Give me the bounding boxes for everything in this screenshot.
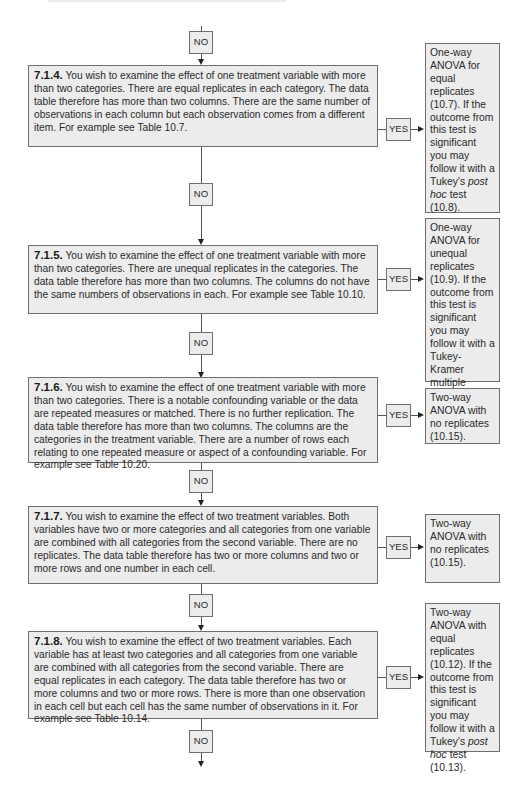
- result-text: One-way ANOVA for unequal replicates (10…: [430, 222, 495, 414]
- result-text: Two-way ANOVA with no replicates (10.15)…: [430, 518, 489, 568]
- connector-line: [201, 355, 202, 373]
- step-number: 7.1.4.: [34, 69, 63, 81]
- step-number: 7.1.6.: [34, 381, 63, 393]
- arrow-right-icon: [418, 412, 424, 418]
- no-label-bottom: NO: [189, 730, 213, 753]
- result-text: Two-way ANOVA with no replicates (10.15)…: [430, 392, 489, 442]
- result-7-1-5: One-way ANOVA for unequal replicates (10…: [425, 218, 500, 382]
- no-label: NO: [189, 594, 213, 617]
- connector-line: [201, 206, 202, 240]
- step-text: You wish to examine the effect of one tr…: [34, 250, 370, 300]
- arrow-right-icon: [418, 674, 424, 680]
- step-7-1-6-box: 7.1.6. You wish to examine the effect of…: [28, 377, 378, 463]
- result-7-1-8: Two-way ANOVA with equal replicates (10.…: [425, 603, 500, 752]
- step-7-1-4-box: 7.1.4. You wish to examine the effect of…: [28, 65, 378, 147]
- no-label-top: NO: [189, 31, 213, 54]
- connector-line: [201, 314, 202, 333]
- result-7-1-4: One-way ANOVA for equal replicates (10.7…: [425, 43, 500, 213]
- no-label: NO: [189, 183, 213, 206]
- result-text: Two-way ANOVA with equal replicates (10.…: [430, 607, 495, 747]
- cut-off-header-text: [48, 0, 286, 2]
- arrow-right-icon: [418, 544, 424, 550]
- connector-line: [378, 415, 386, 416]
- yes-label-7-1-6: YES: [386, 404, 411, 427]
- result-text: One-way ANOVA for equal replicates (10.7…: [430, 47, 495, 187]
- connector-line: [378, 279, 386, 280]
- yes-label-7-1-4: YES: [386, 118, 411, 141]
- step-text: You wish to examine the effect of one tr…: [34, 382, 366, 470]
- no-label: NO: [189, 332, 213, 355]
- arrow-right-icon: [418, 276, 424, 282]
- step-number: 7.1.8.: [34, 635, 63, 647]
- arrow-down-icon: [198, 761, 204, 767]
- connector-line: [378, 129, 386, 130]
- step-text: You wish to examine the effect of one tr…: [34, 70, 370, 133]
- yes-label-7-1-7: YES: [386, 536, 411, 559]
- step-7-1-5-box: 7.1.5. You wish to examine the effect of…: [28, 245, 378, 314]
- connector-line: [201, 147, 202, 183]
- step-7-1-8-box: 7.1.8. You wish to examine the effect of…: [28, 631, 378, 719]
- yes-label-7-1-8: YES: [386, 666, 411, 689]
- connector-line: [378, 547, 386, 548]
- step-text: You wish to examine the effect of two tr…: [34, 636, 365, 724]
- result-7-1-6: Two-way ANOVA with no replicates (10.15)…: [425, 388, 500, 444]
- step-text: You wish to examine the effect of two tr…: [34, 511, 370, 574]
- arrow-right-icon: [418, 126, 424, 132]
- step-number: 7.1.5.: [34, 249, 63, 261]
- yes-label-7-1-5: YES: [386, 268, 411, 291]
- connector-line: [378, 677, 386, 678]
- no-label: NO: [189, 470, 213, 493]
- result-7-1-7: Two-way ANOVA with no replicates (10.15)…: [425, 514, 500, 583]
- step-7-1-7-box: 7.1.7. You wish to examine the effect of…: [28, 506, 378, 584]
- step-number: 7.1.7.: [34, 510, 63, 522]
